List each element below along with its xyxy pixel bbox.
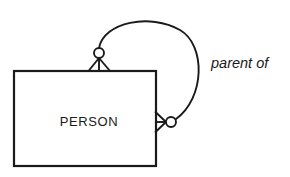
crow-foot-leg-right [99,58,110,71]
right-connector[interactable] [155,112,176,133]
diagram-canvas: PERSON parent of [0,0,290,177]
relationship-label-parent-of: parent of [210,55,270,71]
entity-label-person: PERSON [60,114,119,129]
optionality-circle-top [94,48,104,58]
crow-foot-leg-left [89,58,100,71]
optionality-circle-right [166,117,176,127]
er-diagram: PERSON parent of [0,0,290,177]
top-connector[interactable] [89,48,111,71]
